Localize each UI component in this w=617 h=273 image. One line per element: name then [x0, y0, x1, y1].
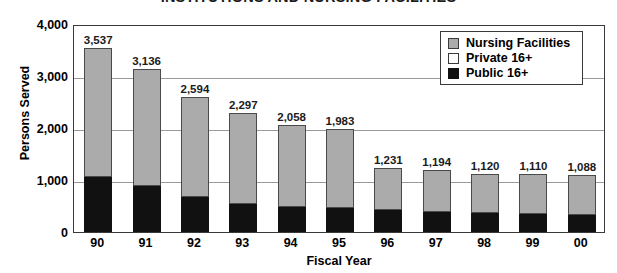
- x-tick-label: 98: [477, 236, 491, 250]
- bar-value-label: 1,983: [326, 115, 355, 127]
- x-tick-label: 96: [380, 236, 394, 250]
- bar-value-label: 3,136: [132, 55, 161, 67]
- legend-item[interactable]: Nursing Facilities: [448, 36, 576, 50]
- chart-title: INSTITUTIONS AND NURSING FACILITIES: [0, 0, 617, 5]
- bar-value-label: 1,120: [471, 160, 500, 172]
- y-tick-label: 0: [6, 227, 68, 240]
- bar-group[interactable]: 3,537: [84, 24, 112, 232]
- x-tick-label: 91: [139, 236, 153, 250]
- bar-value-label: 1,110: [519, 160, 547, 172]
- legend-label: Public 16+: [466, 67, 528, 80]
- bar-segment[interactable]: [326, 129, 354, 208]
- bar-segment[interactable]: [519, 174, 547, 214]
- x-tick-label: 00: [574, 236, 588, 250]
- legend-label: Private 16+: [466, 52, 532, 65]
- x-tick-label: 90: [90, 236, 104, 250]
- bar-segment[interactable]: [181, 97, 209, 197]
- chart-container: INSTITUTIONS AND NURSING FACILITIES Pers…: [0, 0, 617, 273]
- legend-swatch-public: [448, 68, 459, 79]
- bar-segment[interactable]: [374, 210, 402, 232]
- bar-segment[interactable]: [423, 212, 451, 232]
- bar-value-label: 2,594: [181, 83, 210, 95]
- bar-segment[interactable]: [423, 170, 451, 212]
- bar-group[interactable]: 2,594: [181, 24, 209, 232]
- bar-segment[interactable]: [278, 207, 306, 232]
- bar-value-label: 1,194: [422, 156, 451, 168]
- legend-item[interactable]: Private 16+: [448, 51, 576, 65]
- y-tick-label: 4,000: [6, 19, 68, 32]
- legend-swatch-private: [448, 53, 459, 64]
- bar-segment[interactable]: [84, 177, 112, 232]
- bar-segment[interactable]: [133, 69, 161, 186]
- bar-segment[interactable]: [374, 168, 402, 210]
- bar-segment[interactable]: [471, 213, 499, 232]
- bar-segment[interactable]: [568, 215, 596, 232]
- x-axis-title: Fiscal Year: [73, 254, 605, 268]
- bar-segment[interactable]: [278, 125, 306, 207]
- x-tick-label: 93: [235, 236, 249, 250]
- bar-group[interactable]: 1,231: [374, 24, 402, 232]
- legend-swatch-nursing: [448, 38, 459, 49]
- x-tick-label: 92: [187, 236, 201, 250]
- bar-segment[interactable]: [229, 204, 257, 232]
- y-axis-tick-labels: 01,0002,0003,0004,000: [0, 0, 68, 273]
- x-tick-label: 99: [526, 236, 540, 250]
- bar-group[interactable]: 2,058: [278, 24, 306, 232]
- bar-value-label: 2,058: [277, 111, 306, 123]
- bar-value-label: 1,088: [567, 161, 596, 173]
- bar-group[interactable]: 2,297: [229, 24, 257, 232]
- x-axis-tick-labels: 9091929394959697989900: [73, 236, 605, 254]
- bar-group[interactable]: 3,136: [133, 24, 161, 232]
- bar-segment[interactable]: [471, 174, 499, 213]
- bar-segment[interactable]: [326, 208, 354, 232]
- bar-group[interactable]: 1,983: [326, 24, 354, 232]
- bar-value-label: 3,537: [84, 34, 113, 46]
- y-tick-label: 2,000: [6, 123, 68, 136]
- x-tick-label: 97: [429, 236, 443, 250]
- bar-segment[interactable]: [84, 48, 112, 177]
- x-tick-label: 95: [332, 236, 346, 250]
- y-tick-label: 3,000: [6, 71, 68, 84]
- chart-legend: Nursing FacilitiesPrivate 16+Public 16+: [440, 31, 583, 85]
- x-tick-label: 94: [284, 236, 298, 250]
- bar-value-label: 2,297: [229, 99, 258, 111]
- bar-segment[interactable]: [519, 214, 547, 232]
- legend-label: Nursing Facilities: [466, 37, 570, 50]
- bar-segment[interactable]: [229, 113, 257, 205]
- bar-value-label: 1,231: [374, 154, 403, 166]
- bar-segment[interactable]: [568, 175, 596, 215]
- bar-segment[interactable]: [133, 186, 161, 232]
- y-tick-label: 1,000: [6, 175, 68, 188]
- legend-item[interactable]: Public 16+: [448, 66, 576, 80]
- bar-segment[interactable]: [181, 197, 209, 232]
